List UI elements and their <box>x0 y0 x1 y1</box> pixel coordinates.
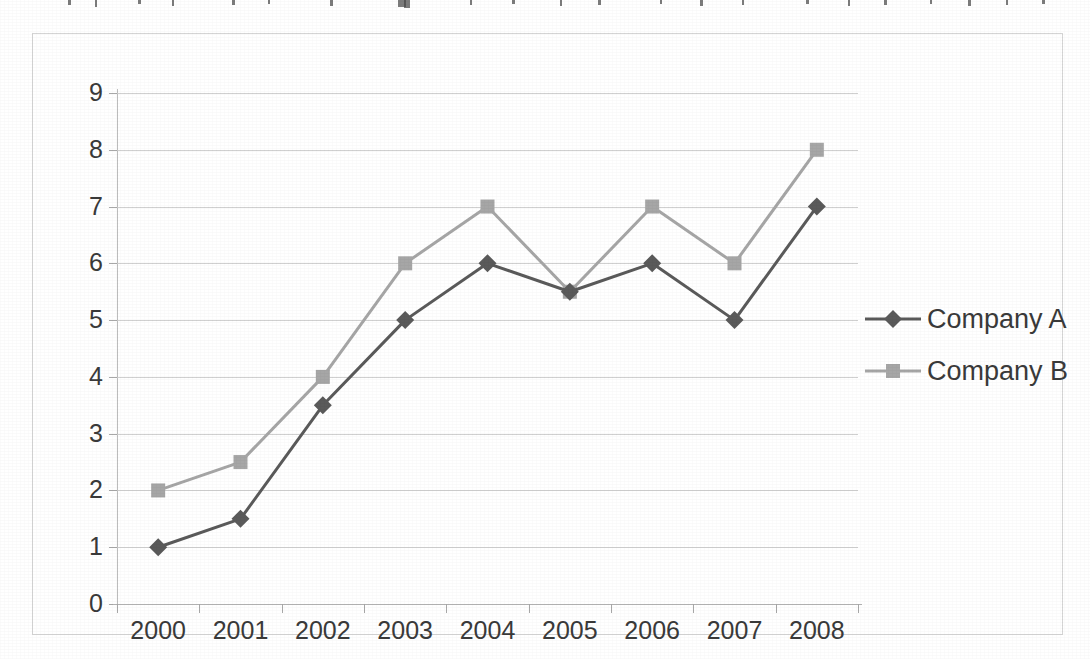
text-descender-fragment <box>1042 0 1045 4</box>
text-descender-fragment <box>68 0 71 5</box>
text-descender-fragment <box>930 0 932 4</box>
text-descender-fragment <box>660 0 662 4</box>
text-descender-fragment <box>512 0 515 4</box>
data-point-marker <box>151 483 165 497</box>
text-descender-fragment <box>742 0 744 5</box>
legend-marker-diamond-icon <box>865 308 921 330</box>
legend-item-company-a[interactable]: Company A <box>857 296 1057 348</box>
text-descender-fragment <box>598 0 601 5</box>
text-descender-fragment <box>404 0 410 8</box>
data-point-marker <box>886 364 900 378</box>
data-point-marker <box>481 200 495 214</box>
data-point-marker <box>316 370 330 384</box>
series-company-b <box>151 143 824 498</box>
data-point-marker <box>149 538 167 556</box>
text-descender-fragment <box>700 0 703 6</box>
chart-frame: 0123456789 20002001200220032004200520062… <box>32 33 1063 635</box>
legend-marker-square-icon <box>865 360 921 382</box>
data-point-marker <box>643 254 661 272</box>
data-point-marker <box>479 254 497 272</box>
text-descender-fragment <box>884 0 887 5</box>
text-descender-fragment <box>470 0 472 5</box>
legend-label: Company A <box>927 296 1067 342</box>
legend-item-company-b[interactable]: Company B <box>857 348 1057 400</box>
text-descender-fragment <box>138 0 141 4</box>
text-descender-fragment <box>848 0 850 6</box>
data-point-marker <box>398 256 412 270</box>
series-company-a <box>149 198 826 557</box>
clipped-text-above <box>0 0 1090 9</box>
chart-legend: Company ACompany B <box>857 296 1057 400</box>
data-point-marker <box>728 256 742 270</box>
data-point-marker <box>810 143 824 157</box>
data-point-marker <box>884 310 902 328</box>
legend-label: Company B <box>927 348 1068 394</box>
text-descender-fragment <box>172 0 174 6</box>
data-point-marker <box>645 200 659 214</box>
text-descender-fragment <box>968 0 971 6</box>
text-descender-fragment <box>806 0 809 4</box>
text-descender-fragment <box>560 0 562 6</box>
data-point-marker <box>234 455 248 469</box>
text-descender-fragment <box>232 0 235 5</box>
text-descender-fragment <box>1006 0 1008 5</box>
text-descender-fragment <box>268 0 270 4</box>
text-descender-fragment <box>95 0 97 7</box>
text-descender-fragment <box>330 0 333 6</box>
